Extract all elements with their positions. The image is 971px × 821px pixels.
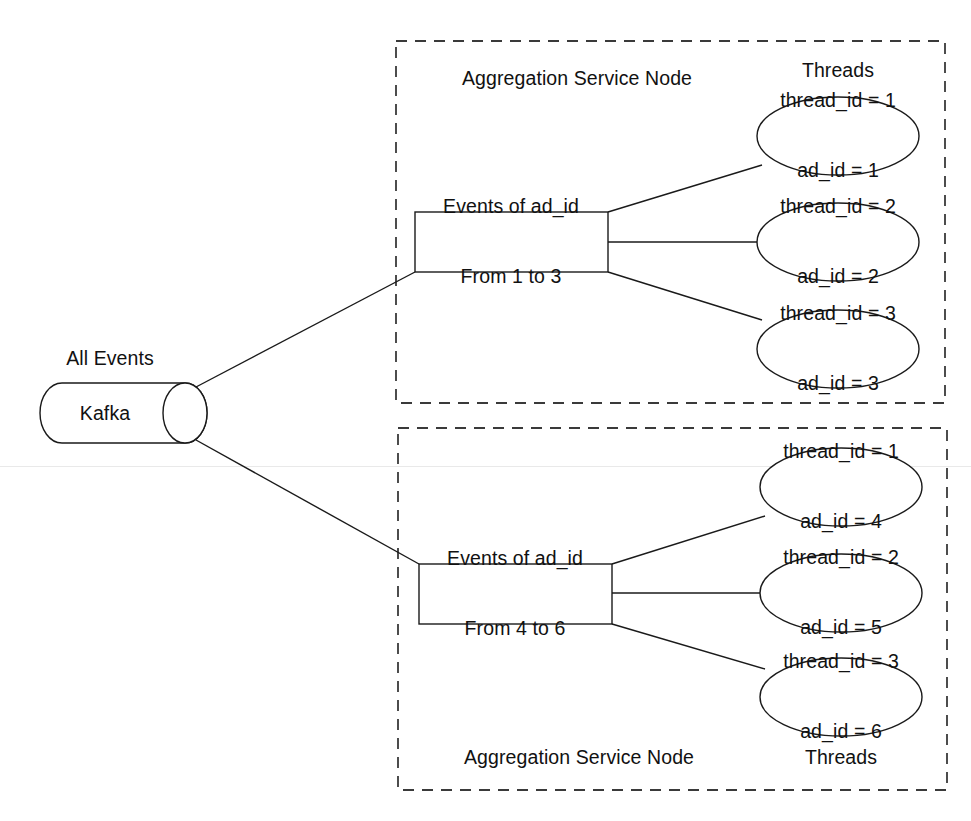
thread-label-top-3-line1: thread_id = 3: [780, 302, 896, 325]
kafka-label: Kafka: [80, 402, 130, 425]
thread-label-top-1-line1: thread_id = 1: [780, 89, 896, 112]
kafka-caption: All Events: [66, 347, 154, 370]
thread-label-top-2-line1: thread_id = 2: [780, 195, 896, 218]
group-label-aggregation-node-bottom: Aggregation Service Node: [464, 746, 694, 769]
partition-label-bottom-line1: Events of ad_id: [447, 547, 583, 570]
connector-bottom-node-to-thread-3: [612, 624, 765, 669]
connector-kafka-to-bottom-node: [196, 440, 419, 564]
group-label-aggregation-node-top: Aggregation Service Node: [462, 67, 692, 90]
connector-kafka-to-top-node: [196, 272, 415, 387]
thread-label-top-3-line2: ad_id = 3: [780, 372, 896, 395]
group-threads-label-bottom: Threads: [805, 746, 877, 769]
partition-label-bottom-line2: From 4 to 6: [447, 617, 583, 640]
thread-label-bottom-2-line1: thread_id = 2: [783, 546, 899, 569]
connector-top-node-to-thread-3: [608, 272, 762, 320]
partition-label-bottom: Events of ad_id From 4 to 6: [447, 500, 583, 687]
thread-label-bottom-3-line2: ad_id = 6: [783, 720, 899, 743]
diagram-canvas: All Events Kafka Aggregation Service Nod…: [0, 0, 971, 821]
thread-label-bottom-1-line1: thread_id = 1: [783, 440, 899, 463]
thread-label-bottom-3-line1: thread_id = 3: [783, 650, 899, 673]
connector-bottom-node-to-thread-1: [612, 516, 765, 564]
connector-top-node-to-thread-1: [608, 165, 762, 212]
partition-label-top: Events of ad_id From 1 to 3: [443, 148, 579, 335]
partition-label-top-line2: From 1 to 3: [443, 265, 579, 288]
partition-label-top-line1: Events of ad_id: [443, 195, 579, 218]
